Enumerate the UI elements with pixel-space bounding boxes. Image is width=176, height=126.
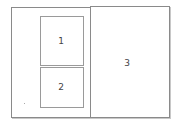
page-3-label: 3 (124, 58, 130, 68)
box-2-label: 2 (58, 82, 64, 92)
box-1-label: 1 (58, 36, 64, 46)
right-page (90, 6, 170, 118)
stray-mark (24, 103, 25, 104)
